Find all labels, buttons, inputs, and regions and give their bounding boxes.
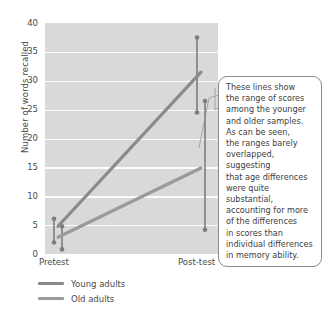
y-tick-5: 5: [16, 221, 38, 230]
legend-swatch-old-adults: [38, 297, 64, 300]
y-tick-15: 15: [16, 163, 38, 172]
y-tick-0: 0: [16, 250, 38, 259]
legend-item-young-adults: Young adults: [38, 276, 208, 291]
callout-text: These lines show the range of scores amo…: [226, 82, 316, 261]
legend-item-old-adults: Old adults: [38, 291, 208, 306]
recall-range-chart: Number of words recalled 40 35 30 25 20 …: [0, 0, 325, 317]
legend-label-old-adults: Old adults: [71, 294, 114, 304]
y-tick-35: 35: [16, 47, 38, 56]
x-tick-post-test: Post-test: [178, 257, 215, 267]
y-tick-25: 25: [16, 105, 38, 114]
y-tick-10: 10: [16, 192, 38, 201]
legend: Young adults Old adults: [38, 276, 208, 306]
y-tick-30: 30: [16, 76, 38, 85]
y-tick-20: 20: [16, 134, 38, 143]
legend-label-young-adults: Young adults: [71, 279, 125, 289]
y-axis-tick-labels: 40 35 30 25 20 15 10 5 0: [12, 0, 38, 317]
y-tick-40: 40: [16, 19, 38, 28]
legend-swatch-young-adults: [38, 282, 64, 285]
range-explanation-callout: These lines show the range of scores amo…: [218, 76, 322, 267]
x-tick-pretest: Pretest: [39, 257, 69, 267]
